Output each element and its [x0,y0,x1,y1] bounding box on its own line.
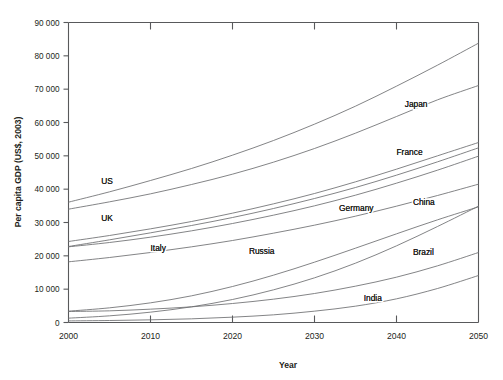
y-tick-label: 60 000 [34,119,59,128]
x-tick-marks [151,23,397,323]
y-tick-label: 30 000 [34,219,59,228]
y-axis-title: Per capita GDP (US$, 2003) [13,117,23,228]
series-label-brazil: Brazil [413,247,434,257]
y-tick-label: 70 000 [34,85,59,94]
x-tick-label: 2020 [223,331,242,341]
series-line-us [69,43,479,202]
chart-figure: 010 00020 00030 00040 00050 00060 00070 … [0,0,503,380]
series-line-china [69,206,479,318]
y-tick-label: 20 000 [34,252,59,261]
x-tick-label: 2030 [305,331,324,341]
series-label-russia: Russia [249,246,275,256]
series-label-china: China [413,197,435,207]
y-tick-label: 90 000 [34,19,59,28]
series-line-brazil [69,253,479,312]
x-tick-label: 2050 [469,331,488,341]
y-tick-label: 50 000 [34,152,59,161]
series-line-russia [69,207,479,311]
y-tick-label: 40 000 [34,185,59,194]
series-label-us: US [101,176,113,186]
series-paths-group [69,43,479,321]
series-label-italy: Italy [151,243,167,253]
x-tick-label: 2010 [141,331,160,341]
x-axis-title: Year [279,360,298,370]
x-tick-labels-group: 200020102020203020402050 [59,331,488,341]
y-tick-labels-group: 010 00020 00030 00040 00050 00060 00070 … [34,19,59,328]
x-tick-label: 2040 [387,331,406,341]
x-tick-label: 2000 [59,331,78,341]
y-tick-label: 80 000 [34,52,59,61]
series-label-japan: Japan [405,99,428,109]
series-label-france: France [397,147,423,157]
y-tick-label: 0 [55,319,60,328]
series-label-uk: UK [101,213,113,223]
series-label-germany: Germany [339,203,374,213]
line-chart-svg: 010 00020 00030 00040 00050 00060 00070 … [0,0,503,380]
series-inline-labels-group: USUSUKUKItalyItalyRussiaRussiaGermanyGer… [101,99,435,303]
axes-group [69,23,479,323]
y-tick-label: 10 000 [34,285,59,294]
y-tick-marks [64,23,69,323]
series-label-india: India [364,293,383,303]
